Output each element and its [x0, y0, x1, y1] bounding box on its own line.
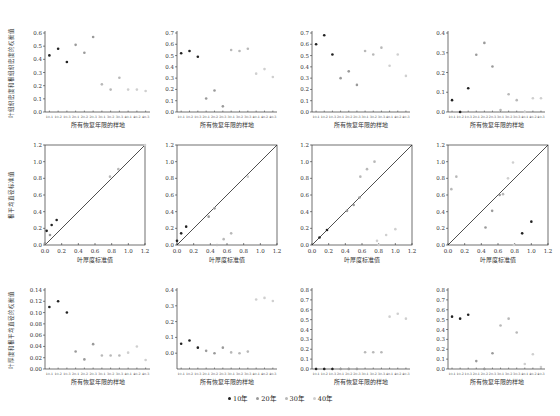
- svg-text:0.0: 0.0: [165, 109, 174, 115]
- svg-text:0.2: 0.2: [33, 225, 42, 231]
- svg-text:0.0: 0.0: [308, 248, 317, 254]
- svg-text:0.7: 0.7: [300, 297, 309, 303]
- svg-text:40-2: 40-2: [394, 115, 401, 119]
- svg-text:20-2: 20-2: [81, 372, 88, 376]
- svg-text:20-3: 20-3: [489, 372, 496, 376]
- svg-text:10-3: 10-3: [465, 115, 472, 119]
- svg-text:40-2: 40-2: [529, 372, 536, 376]
- svg-text:0.0: 0.0: [436, 109, 445, 115]
- svg-text:30-1: 30-1: [361, 115, 368, 119]
- svg-text:10-2: 10-2: [321, 115, 328, 119]
- svg-text:10-1: 10-1: [178, 115, 185, 119]
- svg-text:20-3: 20-3: [219, 372, 226, 376]
- panel-row2-col4: 0.00.20.40.60.81.01.20.00.20.40.60.81.01…: [436, 142, 552, 264]
- svg-text:30-3: 30-3: [378, 372, 385, 376]
- svg-text:0.2: 0.2: [460, 248, 469, 254]
- svg-text:1.0: 1.0: [33, 159, 42, 165]
- svg-text:40-3: 40-3: [537, 115, 544, 119]
- svg-text:所有恢复年限的样地: 所有恢复年限的样地: [71, 378, 125, 386]
- svg-text:0.6: 0.6: [223, 248, 232, 254]
- panel-row1-col1: 0.00.10.20.30.40.50.610-110-210-320-120-…: [7, 28, 150, 130]
- svg-text:0.0: 0.0: [444, 248, 453, 254]
- legend-item-10: 10年: [228, 393, 248, 403]
- svg-text:0.7: 0.7: [436, 297, 445, 303]
- svg-text:0.6: 0.6: [91, 248, 100, 254]
- svg-text:30-3: 30-3: [513, 115, 520, 119]
- svg-text:所有恢复年限的样地: 所有恢复年限的样地: [470, 378, 524, 386]
- svg-text:0.2: 0.2: [300, 225, 309, 231]
- svg-text:30-2: 30-2: [107, 115, 114, 119]
- svg-text:1.2: 1.2: [436, 142, 445, 148]
- svg-text:20-2: 20-2: [211, 372, 218, 376]
- svg-text:0.2: 0.2: [300, 86, 309, 92]
- svg-text:0.1: 0.1: [300, 98, 309, 104]
- svg-text:0.8: 0.8: [300, 287, 309, 293]
- svg-text:0.4: 0.4: [165, 64, 174, 70]
- svg-text:0.6: 0.6: [33, 30, 42, 36]
- svg-text:20-3: 20-3: [90, 372, 97, 376]
- svg-text:0.3: 0.3: [436, 50, 445, 56]
- svg-text:0.2: 0.2: [189, 248, 198, 254]
- svg-text:10-3: 10-3: [194, 115, 201, 119]
- svg-text:30-2: 30-2: [370, 372, 377, 376]
- svg-text:0.7: 0.7: [300, 30, 309, 36]
- svg-text:0.08: 0.08: [30, 321, 43, 327]
- svg-text:0.2: 0.2: [300, 346, 309, 352]
- svg-text:0.12: 0.12: [30, 298, 42, 304]
- svg-text:30-1: 30-1: [497, 115, 504, 119]
- svg-text:40-2: 40-2: [529, 115, 536, 119]
- svg-text:0.6: 0.6: [494, 248, 503, 254]
- svg-text:0.8: 0.8: [436, 287, 445, 293]
- svg-text:0.7: 0.7: [165, 30, 174, 36]
- svg-text:10-3: 10-3: [329, 372, 336, 376]
- svg-text:40-3: 40-3: [142, 372, 149, 376]
- svg-text:0.2: 0.2: [436, 346, 445, 352]
- svg-text:30-3: 30-3: [116, 115, 123, 119]
- svg-text:0.4: 0.4: [74, 248, 83, 254]
- svg-text:30-2: 30-2: [505, 115, 512, 119]
- svg-text:1.2: 1.2: [165, 142, 174, 148]
- svg-text:10-2: 10-2: [457, 115, 464, 119]
- svg-text:0.4: 0.4: [206, 248, 215, 254]
- svg-text:30-3: 30-3: [244, 115, 251, 119]
- legend-marker-icon: [228, 397, 231, 400]
- svg-text:0.06: 0.06: [30, 332, 43, 338]
- svg-text:0.8: 0.8: [239, 248, 248, 254]
- svg-text:叶组织密度和根组织密度的权衡值: 叶组织密度和根组织密度的权衡值: [7, 28, 15, 118]
- svg-text:0.4: 0.4: [300, 209, 309, 215]
- svg-text:0.3: 0.3: [33, 70, 42, 76]
- svg-text:0.5: 0.5: [300, 317, 309, 323]
- svg-text:所有恢复年限的样地: 所有恢复年限的样地: [334, 121, 388, 129]
- svg-text:0.04: 0.04: [30, 343, 43, 349]
- svg-text:40-2: 40-2: [133, 372, 140, 376]
- svg-text:0.8: 0.8: [33, 175, 42, 181]
- svg-text:10-2: 10-2: [55, 115, 62, 119]
- svg-text:30-1: 30-1: [98, 115, 105, 119]
- svg-text:10-3: 10-3: [329, 115, 336, 119]
- svg-text:10-2: 10-2: [55, 372, 62, 376]
- svg-text:0.6: 0.6: [300, 192, 309, 198]
- svg-text:40-2: 40-2: [261, 115, 268, 119]
- svg-text:所有恢复年限的样地: 所有恢复年限的样地: [200, 121, 254, 129]
- svg-text:0.6: 0.6: [358, 248, 367, 254]
- svg-text:1.2: 1.2: [544, 248, 553, 254]
- svg-text:0.1: 0.1: [165, 98, 174, 104]
- svg-text:10-1: 10-1: [312, 372, 319, 376]
- svg-text:0.6: 0.6: [436, 192, 445, 198]
- svg-text:0.3: 0.3: [165, 75, 174, 81]
- svg-text:0.3: 0.3: [300, 75, 309, 81]
- svg-text:0.8: 0.8: [165, 175, 174, 181]
- svg-text:20-2: 20-2: [345, 115, 352, 119]
- svg-text:叶厚度标准值: 叶厚度标准值: [209, 256, 245, 264]
- svg-text:20-1: 20-1: [203, 115, 210, 119]
- svg-text:10-1: 10-1: [46, 372, 53, 376]
- svg-text:30-1: 30-1: [228, 372, 235, 376]
- svg-text:10-2: 10-2: [186, 115, 193, 119]
- svg-text:0.2: 0.2: [33, 83, 42, 89]
- svg-text:0.8: 0.8: [436, 175, 445, 181]
- svg-text:0.5: 0.5: [300, 53, 309, 59]
- svg-text:30-2: 30-2: [370, 115, 377, 119]
- svg-text:40-3: 40-3: [537, 372, 544, 376]
- svg-text:10-2: 10-2: [321, 372, 328, 376]
- svg-text:30-1: 30-1: [361, 372, 368, 376]
